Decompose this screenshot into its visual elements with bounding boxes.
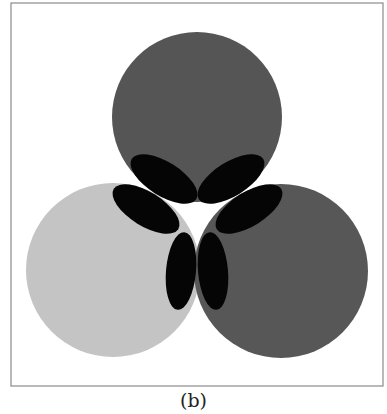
diagram-figure xyxy=(0,0,387,414)
figure-caption: (b) xyxy=(0,389,387,411)
